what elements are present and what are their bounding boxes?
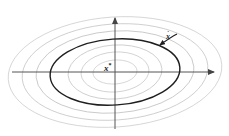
equilibrium-point-label: x* [104,62,112,73]
coordinate-axes [12,18,214,129]
tangent-vector-label: ˙x [166,33,170,41]
equilibrium-point-star: * [109,62,112,68]
vector-dot-accent: ˙ [167,30,169,37]
figure-canvas [0,0,229,136]
contour-figure: x* ˙x [0,0,229,136]
